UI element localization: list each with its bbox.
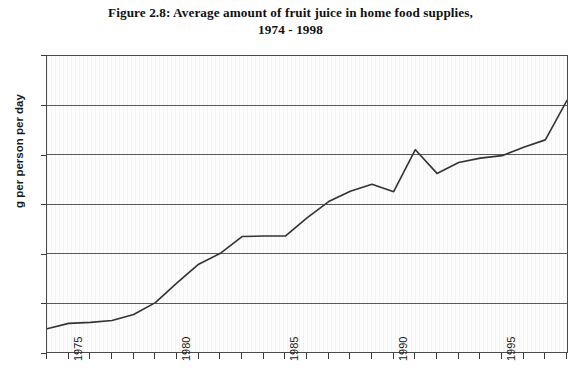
x-tick-mark-1988: [349, 353, 350, 359]
x-tick-mark-1987: [328, 353, 329, 359]
x-tick-mark-1978: [133, 353, 134, 359]
figure-title-line-2: 1974 - 1998: [0, 21, 581, 38]
x-tick-mark-1990: [393, 353, 394, 359]
x-tick-mark-1982: [219, 353, 220, 359]
x-tick-mark-1991: [414, 353, 415, 359]
x-tick-mark-1979: [154, 353, 155, 359]
x-tick-mark-1975: [68, 353, 69, 359]
data-series-fruit-juice: [47, 100, 567, 328]
x-tick-mark-1985: [284, 353, 285, 359]
x-tick-mark-1989: [371, 353, 372, 359]
x-tick-mark-1974: [46, 353, 47, 359]
x-tick-mark-1986: [306, 353, 307, 359]
plot-area: [46, 55, 568, 353]
x-tick-label-1980: 1980: [180, 337, 192, 361]
figure-container: Figure 2.8: Average amount of fruit juic…: [0, 0, 581, 391]
figure-title: Figure 2.8: Average amount of fruit juic…: [0, 4, 581, 38]
x-tick-label-1975: 1975: [72, 337, 84, 361]
x-tick-mark-1994: [479, 353, 480, 359]
x-tick-mark-1976: [89, 353, 90, 359]
x-tick-mark-1993: [458, 353, 459, 359]
x-tick-mark-1997: [544, 353, 545, 359]
x-tick-mark-1977: [111, 353, 112, 359]
x-tick-mark-1995: [501, 353, 502, 359]
x-tick-mark-1981: [198, 353, 199, 359]
y-axis-title: g per person per day: [13, 66, 25, 236]
x-tick-label-1985: 1985: [288, 337, 300, 361]
figure-title-line-1: Figure 2.8: Average amount of fruit juic…: [0, 4, 581, 21]
x-tick-label-1990: 1990: [397, 337, 409, 361]
x-tick-mark-1984: [263, 353, 264, 359]
x-tick-mark-1980: [176, 353, 177, 359]
x-tick-mark-1992: [436, 353, 437, 359]
series-line-chart: [47, 56, 567, 352]
x-tick-mark-1998: [566, 353, 567, 359]
x-tick-mark-1983: [241, 353, 242, 359]
x-tick-mark-1996: [523, 353, 524, 359]
x-tick-label-1995: 1995: [505, 337, 517, 361]
